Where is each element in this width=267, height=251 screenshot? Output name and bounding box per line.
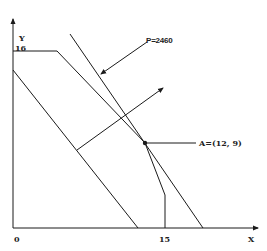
y-axis-label: Y bbox=[19, 34, 25, 42]
x-axis-label: X bbox=[248, 235, 254, 243]
objective-line bbox=[70, 34, 203, 228]
x-tick-label: 15 bbox=[159, 235, 170, 243]
y-tick-label: 16 bbox=[15, 44, 26, 52]
origin-label: 0 bbox=[14, 235, 20, 243]
improvement-direction-arrow bbox=[77, 88, 163, 150]
iso-profit-line-low bbox=[13, 70, 138, 228]
optimal-point-label: A=(12, 9) bbox=[199, 139, 242, 147]
objective-label-pointer bbox=[101, 42, 147, 74]
linear-programming-diagram bbox=[0, 0, 267, 251]
objective-line-label: P=2460 bbox=[146, 37, 173, 45]
